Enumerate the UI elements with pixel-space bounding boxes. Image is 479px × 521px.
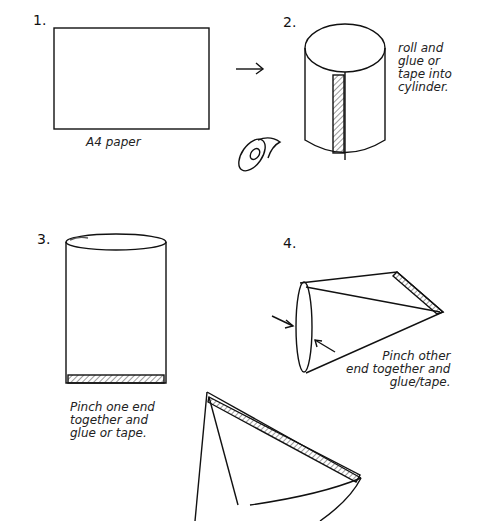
pinched-tetra	[195, 392, 361, 521]
step-1-caption: A4 paper	[86, 136, 141, 149]
tube	[66, 234, 166, 383]
step-1-number: 1.	[33, 12, 46, 28]
step-4-number: 4.	[283, 235, 296, 251]
cylinder	[305, 24, 385, 160]
pinch-arrow-icon	[272, 316, 335, 352]
arrow-right-icon	[236, 63, 263, 74]
tape-roll-icon	[233, 135, 280, 176]
step-4-caption: Pinch other end together and glue/tape.	[346, 350, 450, 389]
step-2-caption: roll and glue or tape into cylinder.	[398, 42, 452, 94]
step-3-caption: Pinch one end together and glue or tape.	[70, 401, 155, 440]
step-3-number: 3.	[37, 231, 50, 247]
step-2-number: 2.	[283, 14, 296, 30]
a4-paper-sheet	[54, 28, 209, 129]
